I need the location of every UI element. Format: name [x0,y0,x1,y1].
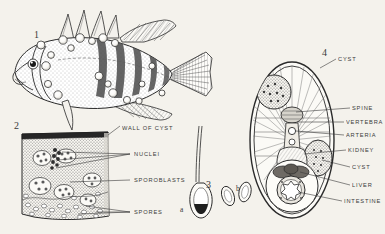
intestine [277,176,305,204]
vertebra [281,107,303,123]
spore-sublabel-b: b [236,185,240,193]
label-kidney: KIDNEY [348,147,374,153]
plate-artwork [0,0,385,234]
figure-number-1: 1 [34,30,39,40]
arteria [288,127,295,134]
label-vertebra: VERTEBRA [346,119,383,125]
label-spine: SPINE [352,105,373,111]
label-liver: LIVER [352,182,373,188]
figure-number-2: 2 [14,121,19,131]
illustration-plate: 1 2 3 4 a b WALL OF CYST NUCLEI SPOROBLA… [0,0,385,234]
label-sporoblasts: SPOROBLASTS [134,177,186,183]
label-arteria: ARTERIA [346,132,376,138]
label-wall-of-cyst: WALL OF CYST [122,125,173,131]
label-intestine: INTESTINE [344,198,381,204]
eye [28,59,38,69]
label-cyst-lower: CYST [352,164,371,170]
figure-number-4: 4 [322,48,327,58]
spore-sublabel-a: a [180,206,183,214]
label-spores: SPORES [134,209,163,215]
label-cyst-upper: CYST [338,56,357,62]
figure-number-3: 3 [206,180,211,190]
label-nuclei: NUCLEI [134,151,160,157]
